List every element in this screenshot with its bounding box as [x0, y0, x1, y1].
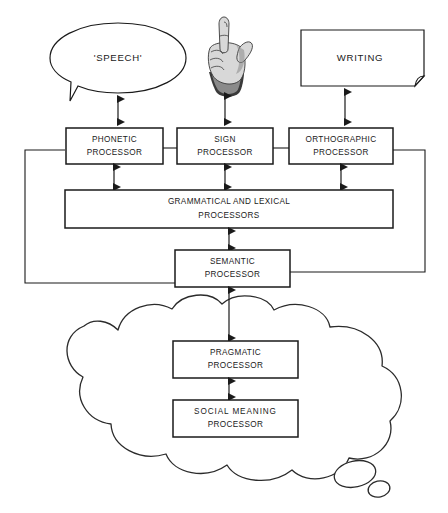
- processor-box-orthographic[interactable]: ORTHOGRAPHIC PROCESSOR: [289, 128, 393, 164]
- processor-sign-line2: PROCESSOR: [197, 148, 252, 157]
- processor-box-phonetic[interactable]: PHONETIC PROCESSOR: [66, 128, 163, 164]
- processor-pragmatic-line1: PRAGMATIC: [210, 348, 261, 357]
- processor-social-meaning-line1: SOCIAL MEANING: [194, 407, 277, 416]
- processor-sign-line1: SIGN: [214, 135, 235, 144]
- processor-box-pragmatic[interactable]: PRAGMATIC PROCESSOR: [173, 341, 298, 378]
- speech-bubble: 'SPEECH': [50, 23, 186, 101]
- processor-box-grammatical[interactable]: GRAMMATICAL AND LEXICAL PROCESSORS: [65, 190, 393, 228]
- thought-cloud: [67, 295, 401, 499]
- processor-phonetic-line2: PROCESSOR: [87, 148, 142, 157]
- processor-box-sign[interactable]: SIGN PROCESSOR: [177, 128, 273, 164]
- language-processing-diagram: 'SPEECH' WRITING: [0, 0, 448, 513]
- processor-social-meaning-line2: PROCESSOR: [208, 420, 263, 429]
- processor-grammatical-line1: GRAMMATICAL AND LEXICAL: [168, 197, 290, 206]
- processor-grammatical-line2: PROCESSORS: [198, 211, 259, 220]
- processor-pragmatic-line2: PROCESSOR: [208, 361, 263, 370]
- processor-orthographic-line1: ORTHOGRAPHIC: [306, 135, 377, 144]
- processor-phonetic-line1: PHONETIC: [92, 135, 137, 144]
- writing-page-label: WRITING: [337, 52, 383, 63]
- processor-box-social-meaning[interactable]: SOCIAL MEANING PROCESSOR: [173, 400, 298, 437]
- processor-semantic-line2: PROCESSOR: [205, 270, 260, 279]
- diagram-canvas: 'SPEECH' WRITING: [0, 0, 448, 513]
- processor-semantic-line1: SEMANTIC: [210, 257, 255, 266]
- processor-orthographic-line2: PROCESSOR: [313, 148, 368, 157]
- speech-bubble-label: 'SPEECH': [94, 52, 143, 63]
- cloud-tail-small: [367, 479, 392, 499]
- processor-box-semantic[interactable]: SEMANTIC PROCESSOR: [175, 250, 290, 287]
- sign-hand-icon: [208, 17, 252, 97]
- writing-page: WRITING: [301, 30, 424, 86]
